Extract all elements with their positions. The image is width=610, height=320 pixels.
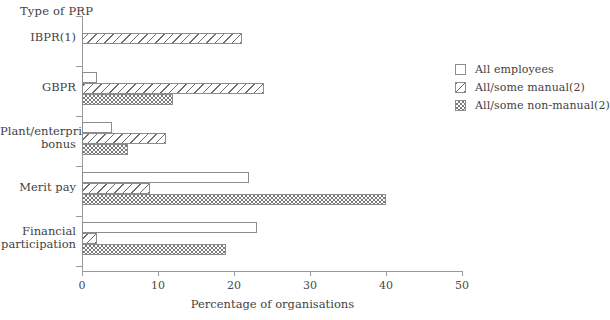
legend-item: All/some manual(2) [455, 78, 610, 96]
bar [82, 83, 264, 94]
bar [82, 194, 386, 205]
bar [82, 122, 112, 133]
x-axis-line [82, 271, 463, 272]
category-label: Plant/enterprise bonus [0, 125, 76, 150]
x-tick [158, 271, 159, 276]
x-tick [386, 271, 387, 276]
legend: All employeesAll/some manual(2)All/some … [455, 60, 610, 114]
legend-label: All/some non-manual(2) [475, 99, 610, 112]
x-tick-label: 10 [151, 279, 165, 292]
x-tick [462, 271, 463, 276]
y-tick [76, 116, 82, 117]
x-tick [234, 271, 235, 276]
x-tick-label: 30 [303, 279, 317, 292]
bar [82, 72, 97, 83]
x-tick [82, 271, 83, 276]
category-label: Merit pay [0, 181, 76, 194]
bar [82, 94, 173, 105]
legend-swatch [455, 64, 466, 75]
legend-label: All/some manual(2) [475, 81, 585, 94]
bar [82, 222, 257, 233]
bar [82, 233, 97, 244]
bar [82, 133, 166, 144]
bar [82, 144, 128, 155]
x-tick-label: 0 [79, 279, 86, 292]
bar [82, 183, 150, 194]
legend-item: All employees [455, 60, 610, 78]
y-tick [76, 266, 82, 267]
y-tick [76, 16, 82, 17]
x-tick-label: 40 [379, 279, 393, 292]
x-tick [310, 271, 311, 276]
category-label: GBPR [0, 81, 76, 94]
category-label: IBPR(1) [0, 31, 76, 44]
bar [82, 172, 249, 183]
legend-swatch [455, 82, 466, 93]
category-label: Financial participation [0, 225, 76, 250]
y-tick [76, 66, 82, 67]
x-tick-label: 50 [455, 279, 469, 292]
legend-item: All/some non-manual(2) [455, 96, 610, 114]
x-tick-label: 20 [227, 279, 241, 292]
bar [82, 244, 226, 255]
legend-swatch [455, 100, 466, 111]
x-axis-title: Percentage of organisations [82, 297, 463, 311]
bar [82, 33, 242, 44]
y-tick [76, 166, 82, 167]
legend-label: All employees [475, 63, 554, 76]
y-tick [76, 216, 82, 217]
